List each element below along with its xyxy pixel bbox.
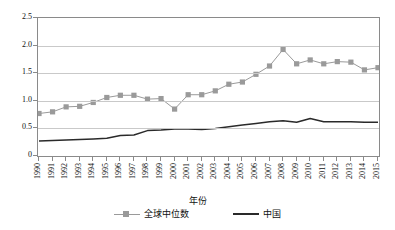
x-axis-tick-label: 1991 — [48, 163, 56, 179]
x-axis-tick-mark — [119, 157, 120, 161]
x-axis-tick-label: 2010 — [305, 163, 313, 179]
x-axis-tick-mark — [336, 157, 337, 161]
series-line-china — [39, 118, 378, 141]
x-axis-tick-label: 1993 — [75, 163, 83, 179]
x-axis-tick-mark — [133, 157, 134, 161]
x-axis-tick-mark — [269, 157, 270, 161]
chart-container: 00.51.01.52.02.5 19901991199219931994199… — [0, 0, 395, 230]
y-axis-tick-label: 2.5 — [22, 13, 32, 21]
x-axis-tick-mark — [214, 157, 215, 161]
x-axis-tick-mark — [309, 157, 310, 161]
data-point-marker — [50, 109, 55, 114]
legend-key-global-median-icon — [114, 210, 140, 219]
data-point-marker — [348, 60, 353, 65]
x-axis-tick-mark — [92, 157, 93, 161]
x-axis-tick-mark — [241, 157, 242, 161]
gridline — [38, 73, 379, 74]
x-axis-tick-label: 1996 — [115, 163, 123, 179]
y-axis-tick-label: 1.5 — [22, 68, 32, 76]
x-axis-tick-label: 1995 — [102, 163, 110, 179]
series-layer — [38, 18, 379, 156]
x-axis-tick-mark — [187, 157, 188, 161]
data-point-marker — [321, 61, 326, 66]
data-point-marker — [280, 47, 285, 52]
data-point-marker — [308, 57, 313, 62]
x-axis-tick-mark — [146, 157, 147, 161]
x-axis-tick-label: 1998 — [142, 163, 150, 179]
plot-area — [37, 17, 380, 157]
x-axis-title: 年份 — [0, 196, 395, 206]
data-point-marker — [172, 106, 177, 111]
data-point-marker — [375, 65, 379, 70]
x-axis-tick-mark — [363, 157, 364, 161]
data-point-marker — [38, 111, 42, 116]
x-axis-tick-label: 2009 — [292, 163, 300, 179]
x-axis-tick-label: 1994 — [88, 163, 96, 179]
y-axis-tick-label: 1.0 — [22, 96, 32, 104]
legend-item-china: 中国 — [233, 209, 281, 219]
data-point-marker — [64, 104, 69, 109]
series-line-global-median — [39, 49, 378, 113]
x-axis-tick-mark — [106, 157, 107, 161]
data-point-marker — [294, 61, 299, 66]
data-point-marker — [213, 88, 218, 93]
x-axis-tick-label: 2012 — [332, 163, 340, 179]
x-axis-tick-mark — [38, 157, 39, 161]
x-axis-tick-label: 2001 — [183, 163, 191, 179]
x-axis-tick-label: 2004 — [224, 163, 232, 179]
gridline — [38, 46, 379, 47]
data-point-marker — [240, 79, 245, 84]
x-axis-tick-mark — [52, 157, 53, 161]
y-axis-tick-label: 2.0 — [22, 41, 32, 49]
gridline — [38, 101, 379, 102]
data-point-marker — [104, 95, 109, 100]
x-axis-tick-label: 2000 — [170, 163, 178, 179]
x-axis-tick-mark — [160, 157, 161, 161]
x-axis-tick-label: 1997 — [129, 163, 137, 179]
chart-legend: 全球中位数 中国 — [0, 209, 395, 219]
data-point-marker — [362, 67, 367, 72]
data-point-marker — [77, 104, 82, 109]
legend-item-global-median: 全球中位数 — [114, 209, 189, 219]
x-axis-tick-label: 1999 — [156, 163, 164, 179]
x-axis-tick-label: 2006 — [251, 163, 259, 179]
data-point-marker — [186, 92, 191, 97]
legend-key-china-icon — [233, 210, 259, 219]
data-point-marker — [118, 93, 123, 98]
y-axis-tick-label: 0.5 — [22, 123, 32, 131]
x-axis-tick-mark — [228, 157, 229, 161]
data-point-marker — [199, 92, 204, 97]
data-point-marker — [226, 82, 231, 87]
x-axis-tick-mark — [323, 157, 324, 161]
x-axis-tick-label: 2007 — [265, 163, 273, 179]
x-axis-tick-label: 2003 — [210, 163, 218, 179]
x-axis-tick-mark — [296, 157, 297, 161]
x-axis-tick-mark — [174, 157, 175, 161]
data-point-marker — [131, 93, 136, 98]
x-axis-tick-mark — [282, 157, 283, 161]
x-axis-tick-label: 2002 — [197, 163, 205, 179]
x-axis-tick-mark — [350, 157, 351, 161]
legend-label-global-median: 全球中位数 — [144, 209, 189, 219]
data-point-marker — [335, 59, 340, 64]
x-axis-tick-label: 2011 — [319, 163, 327, 179]
data-point-marker — [267, 63, 272, 68]
x-axis-tick-mark — [79, 157, 80, 161]
x-axis-tick-label: 2005 — [237, 163, 245, 179]
x-axis-tick-mark — [255, 157, 256, 161]
x-axis-tick-mark — [201, 157, 202, 161]
x-axis-tick-label: 1990 — [34, 163, 42, 179]
x-axis-tick-mark — [377, 157, 378, 161]
y-axis-tick-label: 0 — [28, 151, 32, 159]
x-axis-tick-mark — [65, 157, 66, 161]
x-axis-tick-label: 2014 — [359, 163, 367, 179]
x-axis-tick-label: 2008 — [278, 163, 286, 179]
gridline — [38, 128, 379, 129]
x-axis-tick-label: 1992 — [61, 163, 69, 179]
x-axis-tick-label: 2015 — [373, 163, 381, 179]
x-axis-tick-label: 2013 — [346, 163, 354, 179]
y-axis: 00.51.01.52.02.5 — [0, 0, 37, 175]
legend-label-china: 中国 — [263, 209, 281, 219]
